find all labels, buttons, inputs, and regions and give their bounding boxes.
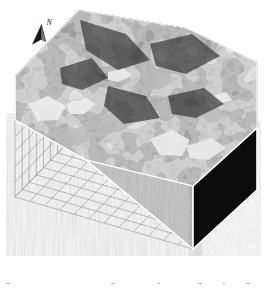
block-diagram-scene: N [0, 0, 275, 294]
north-arrow-icon [33, 25, 46, 45]
north-arrow-label: N [46, 18, 53, 27]
terrain-top-surface [0, 0, 275, 294]
figure-caption-text: Figure 3. Three-dimensional block diagra… [0, 283, 275, 285]
figure-container: N Figure 3. Three-dimensional block diag… [0, 0, 275, 294]
figure-caption: Figure 3. Three-dimensional block diagra… [0, 283, 275, 294]
